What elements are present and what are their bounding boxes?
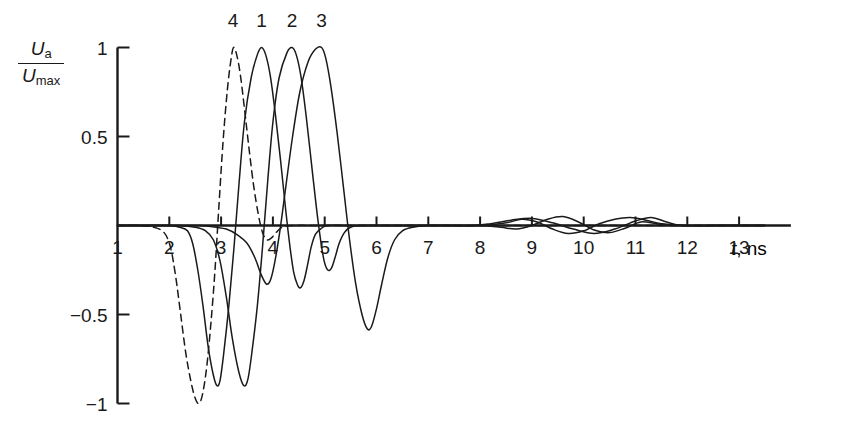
y-tick-label: −1 [86, 394, 108, 413]
x-tick-label: 4 [268, 238, 279, 257]
x-tick-label: 5 [319, 238, 330, 257]
curve-2 [118, 47, 766, 386]
plot-canvas [0, 0, 857, 441]
y-tick-label: 1 [97, 38, 108, 57]
x-tick-label: 13 [729, 238, 750, 257]
y-tick-label: −0.5 [70, 305, 108, 324]
x-tick-label: 8 [475, 238, 486, 257]
x-tick-label: 3 [216, 238, 227, 257]
x-tick-label: 9 [527, 238, 538, 257]
y-tick-label: 0.5 [81, 127, 107, 146]
x-tick-label: 12 [677, 238, 698, 257]
curve-3 [118, 47, 766, 330]
curve-label-2: 2 [287, 11, 298, 30]
curve-label-3: 3 [316, 11, 327, 30]
x-tick-label: 6 [371, 238, 382, 257]
x-tick-label: 10 [573, 238, 594, 257]
x-tick-label: 1 [112, 238, 123, 257]
x-tick-label: 2 [164, 238, 175, 257]
curve-1 [118, 48, 766, 387]
x-tick-label: 11 [626, 238, 646, 257]
chart-figure: Ua Umax t, ns 1234567891011121310.5−0.5−… [0, 0, 857, 441]
curve-label-1: 1 [256, 11, 267, 30]
x-tick-label: 7 [423, 238, 434, 257]
curve-label-4: 4 [228, 11, 239, 30]
